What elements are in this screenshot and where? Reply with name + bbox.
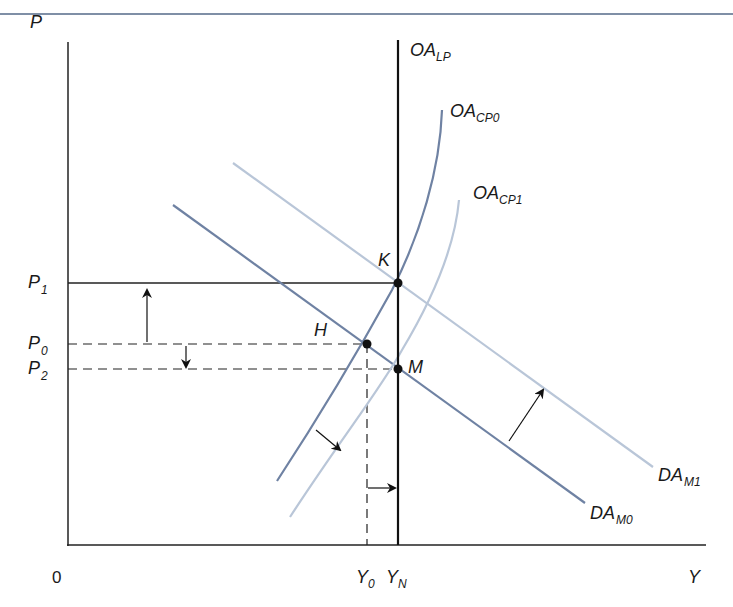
x-axis-label: Y xyxy=(688,567,702,587)
oa-cp1-curve xyxy=(290,200,459,517)
ad-as-diagram: P Y 0 P1 P0 P2 Y0 YN OALP OACP0 OACP1 DA… xyxy=(0,0,733,607)
point-k xyxy=(394,279,403,288)
p1-label: P1 xyxy=(28,272,48,297)
arrow-demand-shift-icon xyxy=(509,390,543,441)
da-m1-curve xyxy=(233,163,653,467)
da-m0-label: DAM0 xyxy=(590,503,633,527)
origin-label: 0 xyxy=(52,568,61,587)
p2-label: P2 xyxy=(28,358,48,383)
yn-label: YN xyxy=(386,567,407,591)
y-axis-label: P xyxy=(30,12,42,32)
arrow-supply-shift-icon xyxy=(316,430,340,450)
da-m1-label: DAM1 xyxy=(658,465,701,489)
point-m xyxy=(394,365,403,374)
point-h xyxy=(363,340,372,349)
oa-lp-label: OALP xyxy=(410,40,451,64)
h-label: H xyxy=(314,320,328,340)
y0-label: Y0 xyxy=(356,567,375,591)
oa-cp0-label: OACP0 xyxy=(450,101,500,125)
oa-cp1-label: OACP1 xyxy=(473,183,522,207)
p0-label: P0 xyxy=(28,333,48,358)
k-label: K xyxy=(378,250,391,270)
m-label: M xyxy=(408,357,423,377)
axes xyxy=(67,42,706,546)
